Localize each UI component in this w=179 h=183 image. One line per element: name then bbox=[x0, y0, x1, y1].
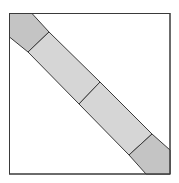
diagram-canvas bbox=[0, 0, 179, 183]
